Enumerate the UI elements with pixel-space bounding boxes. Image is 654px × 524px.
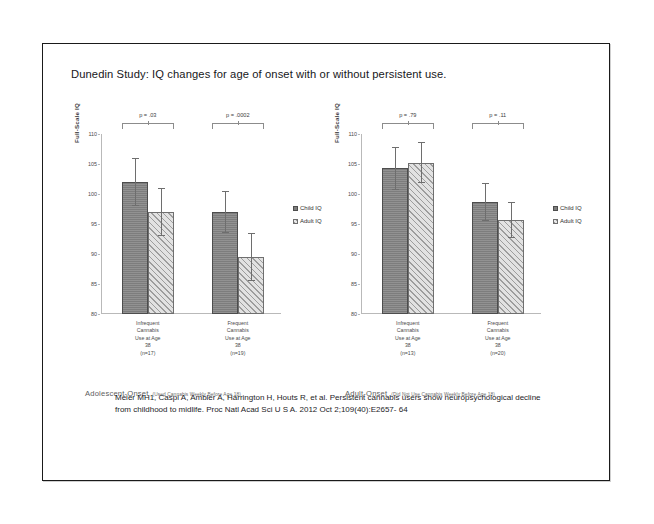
- citation-line-3: 64: [399, 405, 408, 414]
- y-tick-mark: [98, 314, 100, 315]
- legend-item-adult: Adult IQ: [553, 215, 582, 228]
- x-axis-label-group-2: FrequentCannabisUse at Age38(n=20): [460, 320, 536, 357]
- legend-swatch-adult-icon: [553, 219, 558, 224]
- y-tick-mark: [98, 164, 100, 165]
- y-tick-mark: [358, 224, 360, 225]
- y-axis-tick-110: 110: [77, 131, 97, 137]
- error-bar-adult-iq-group-2: [511, 202, 512, 238]
- y-axis-tick-100: 100: [337, 191, 357, 197]
- significance-brace-group-2: [212, 123, 264, 129]
- legend-item-child: Child IQ: [553, 202, 582, 215]
- y-tick-mark: [98, 194, 100, 195]
- error-bar-adult-iq-group-1: [421, 142, 422, 183]
- y-axis-title-left: Full-Scale IQ: [73, 78, 80, 168]
- x-axis-label-line: Infrequent: [110, 320, 186, 327]
- y-axis-tick-90: 90: [337, 251, 357, 257]
- x-axis-label-line: 38: [200, 342, 276, 349]
- legend-swatch-adult-icon: [293, 219, 298, 224]
- legend-item-adult: Adult IQ: [293, 215, 322, 228]
- x-axis-label-line: Cannabis: [200, 327, 276, 334]
- bar-adult-iq-group-1: [408, 163, 434, 314]
- legend-item-child: Child IQ: [293, 202, 322, 215]
- x-axis-label-line: Cannabis: [370, 327, 446, 334]
- y-axis-tick-85: 85: [337, 281, 357, 287]
- error-bar-adult-iq-group-1: [161, 188, 162, 236]
- plot-area-left: 80859095100105110p = .03p = .0002: [101, 134, 281, 314]
- chart-panel-adolescent-onset: Full-Scale IQ 80859095100105110p = .03p …: [71, 110, 341, 400]
- y-axis-tick-105: 105: [337, 161, 357, 167]
- y-axis-title-right: Full-Scale IQ: [333, 78, 340, 168]
- y-tick-mark: [358, 194, 360, 195]
- y-axis-tick-100: 100: [77, 191, 97, 197]
- error-bar-child-iq-group-2: [485, 183, 486, 221]
- x-axis-label-group-1: InfrequentCannabisUse at Age38(n=17): [110, 320, 186, 357]
- y-axis-line-left: [101, 134, 102, 314]
- error-bar-child-iq-group-2: [225, 191, 226, 233]
- chart-panel-adult-onset: Full-Scale IQ 80859095100105110p = .79p …: [331, 110, 601, 400]
- citation-block: Meier MH1, Caspi A, Ambler A, Harrington…: [115, 392, 545, 417]
- page-title: Dunedin Study: IQ changes for age of ons…: [71, 68, 591, 80]
- bar-child-iq-group-1: [382, 168, 408, 314]
- x-axis-sample-size: (n=20): [460, 350, 536, 357]
- legend-label-child: Child IQ: [560, 205, 582, 211]
- x-axis-label-line: Use at Age: [110, 335, 186, 342]
- x-axis-label-line: Cannabis: [110, 327, 186, 334]
- y-axis-tick-90: 90: [77, 251, 97, 257]
- significance-brace-group-1: [122, 123, 174, 129]
- y-axis-line-right: [361, 134, 362, 314]
- x-axis-label-line: Frequent: [460, 320, 536, 327]
- y-tick-mark: [358, 284, 360, 285]
- citation-line-1: Meier MH1, Caspi A, Ambler A, Harrington…: [115, 393, 442, 402]
- x-axis-label-line: Cannabis: [460, 327, 536, 334]
- y-tick-mark: [358, 164, 360, 165]
- y-axis-tick-80: 80: [337, 311, 357, 317]
- legend-swatch-child-icon: [553, 206, 558, 211]
- error-bar-child-iq-group-1: [135, 158, 136, 206]
- x-axis-label-line: Frequent: [200, 320, 276, 327]
- x-axis-label-line: 38: [370, 342, 446, 349]
- p-value-label-group-1: p = .79: [399, 112, 416, 118]
- x-axis-label-group-2: FrequentCannabisUse at Age38(n=19): [200, 320, 276, 357]
- error-bar-child-iq-group-1: [395, 147, 396, 190]
- significance-brace-group-2: [472, 123, 524, 129]
- legend-swatch-child-icon: [293, 206, 298, 211]
- y-axis-tick-80: 80: [77, 311, 97, 317]
- y-tick-mark: [358, 314, 360, 315]
- p-value-label-group-2: p = .0002: [226, 112, 249, 118]
- x-axis-label-group-1: InfrequentCannabisUse at Age38(n=13): [370, 320, 446, 357]
- legend-label-child: Child IQ: [300, 205, 322, 211]
- x-axis-sample-size: (n=19): [200, 350, 276, 357]
- legend-right: Child IQ Adult IQ: [553, 202, 582, 228]
- significance-brace-group-1: [382, 123, 434, 129]
- x-axis-label-line: Infrequent: [370, 320, 446, 327]
- y-axis-tick-95: 95: [337, 221, 357, 227]
- legend-left: Child IQ Adult IQ: [293, 202, 322, 228]
- p-value-label-group-2: p = .11: [489, 112, 506, 118]
- legend-label-adult: Adult IQ: [300, 218, 322, 224]
- legend-label-adult: Adult IQ: [560, 218, 582, 224]
- plot-area-right: 80859095100105110p = .79p = .11: [361, 134, 541, 314]
- y-tick-mark: [358, 134, 360, 135]
- y-axis-tick-95: 95: [77, 221, 97, 227]
- x-axis-label-line: Use at Age: [200, 335, 276, 342]
- y-tick-mark: [98, 224, 100, 225]
- y-tick-mark: [358, 254, 360, 255]
- error-bar-adult-iq-group-2: [251, 233, 252, 281]
- y-axis-tick-110: 110: [337, 131, 357, 137]
- x-axis-label-line: Use at Age: [460, 335, 536, 342]
- p-value-label-group-1: p = .03: [139, 112, 156, 118]
- x-axis-label-line: 38: [110, 342, 186, 349]
- y-tick-mark: [98, 254, 100, 255]
- y-axis-tick-105: 105: [77, 161, 97, 167]
- y-tick-mark: [98, 284, 100, 285]
- y-tick-mark: [98, 134, 100, 135]
- y-axis-tick-85: 85: [77, 281, 97, 287]
- x-axis-sample-size: (n=13): [370, 350, 446, 357]
- x-axis-label-line: 38: [460, 342, 536, 349]
- slide-canvas: Dunedin Study: IQ changes for age of ons…: [42, 43, 610, 481]
- x-axis-label-line: Use at Age: [370, 335, 446, 342]
- x-axis-sample-size: (n=17): [110, 350, 186, 357]
